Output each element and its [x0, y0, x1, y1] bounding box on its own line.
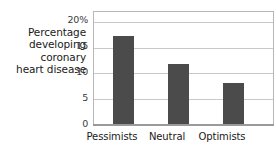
gridline-20 — [94, 22, 273, 23]
y-tick-label-15: 15 — [56, 40, 88, 51]
x-axis-line — [93, 124, 274, 126]
y-tick-label-10: 10 — [56, 66, 88, 77]
x-tick-label-optimists: Optimists — [189, 131, 255, 142]
plot-area — [93, 11, 274, 125]
y-tick-label-5: 5 — [56, 92, 88, 103]
y-axis-title-line-1: Percentage — [0, 26, 86, 38]
bar-optimists — [223, 83, 244, 124]
y-axis-title-line-3: coronary — [0, 51, 86, 63]
y-tick-label-0: 0 — [56, 118, 88, 129]
bar-pessimists — [113, 36, 134, 124]
y-tick-label-20: 20% — [56, 14, 88, 25]
bar-chart: Percentage developing coronary heart dis… — [0, 0, 276, 155]
bar-neutral — [168, 64, 189, 124]
